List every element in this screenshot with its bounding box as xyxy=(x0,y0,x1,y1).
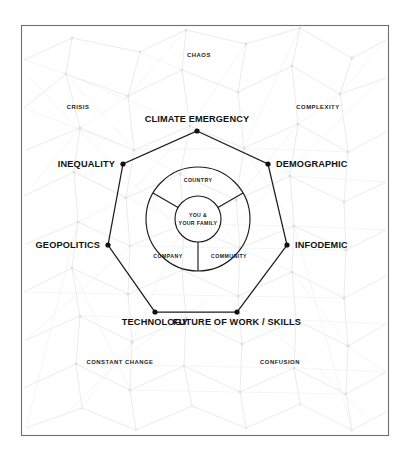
vertex-label-inequality: INEQUALITY xyxy=(58,159,115,169)
ambient-label-chaos: CHAOS xyxy=(187,52,211,58)
vertex-dot-infodemic[interactable] xyxy=(284,242,289,247)
vertex-dot-future-of-work-skills[interactable] xyxy=(234,309,239,314)
ring-label-company: COMPANY xyxy=(153,253,182,259)
core-label-line-1: YOU & xyxy=(189,212,207,218)
spheres-of-influence-diagram: CLIMATE EMERGENCY DEMOGRAPHIC INFODEMIC … xyxy=(0,0,409,462)
vertex-dot-climate-emergency[interactable] xyxy=(194,128,199,133)
ambient-label-complexity: COMPLEXITY xyxy=(296,104,339,110)
ambient-label-constant-change: CONSTANT CHANGE xyxy=(87,359,154,365)
vertex-label-climate-emergency: CLIMATE EMERGENCY xyxy=(145,114,249,124)
vertex-label-technology: TECHNOLOGY xyxy=(122,317,188,327)
vertex-label-demographic: DEMOGRAPHIC xyxy=(276,159,348,169)
ring-label-community: COMMUNITY xyxy=(211,253,247,259)
vertex-label-future-of-work-skills: FUTURE OF WORK / SKILLS xyxy=(173,317,301,327)
core-label-line-2: YOUR FAMILY xyxy=(179,220,218,226)
ambient-label-confusion: CONFUSION xyxy=(260,359,300,365)
diagram-canvas: CLIMATE EMERGENCY DEMOGRAPHIC INFODEMIC … xyxy=(0,0,409,462)
vertex-dot-geopolitics[interactable] xyxy=(105,242,110,247)
ambient-label-crisis: CRISIS xyxy=(67,104,90,110)
vertex-label-infodemic: INFODEMIC xyxy=(295,240,348,250)
vertex-dot-demographic[interactable] xyxy=(265,161,270,166)
vertex-label-geopolitics: GEOPOLITICS xyxy=(36,240,100,250)
vertex-dot-technology[interactable] xyxy=(152,309,157,314)
vertex-dot-inequality[interactable] xyxy=(120,161,125,166)
inner-core-circle xyxy=(175,196,221,242)
ring-label-country: COUNTRY xyxy=(184,177,213,183)
